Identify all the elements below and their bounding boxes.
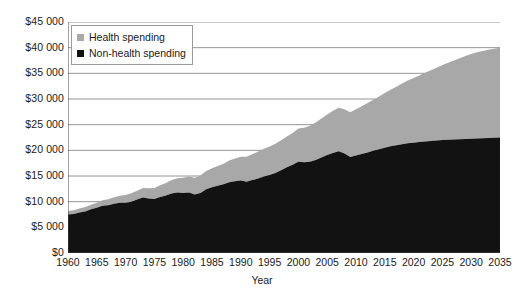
x-axis-tick-label: 2025 — [431, 256, 454, 268]
y-axis-tick-label: $30 000 — [2, 92, 64, 104]
y-axis-tick-labels: $0$5 000$10 000$15 000$20 000$25 000$30 … — [0, 0, 64, 300]
legend-swatch-health-icon — [77, 34, 84, 41]
chart-legend: Health spending Non-health spending — [71, 25, 193, 65]
y-axis-tick-label: $25 000 — [2, 118, 64, 130]
y-axis-tick-label: $10 000 — [2, 195, 64, 207]
x-axis-tick-label: 2005 — [316, 256, 339, 268]
x-axis-tick-label: 2000 — [287, 256, 310, 268]
x-axis-tick-label: 1965 — [85, 256, 108, 268]
y-axis-tick-label: $15 000 — [2, 169, 64, 181]
x-axis-tick-label: 1985 — [200, 256, 223, 268]
x-axis-tick-label: 1980 — [172, 256, 195, 268]
y-axis-tick-label: $45 000 — [2, 15, 64, 27]
y-axis-tick-label: $20 000 — [2, 143, 64, 155]
y-axis-tick-label: $35 000 — [2, 66, 64, 78]
x-axis-tick-label: 2035 — [488, 256, 511, 268]
y-axis-tick-label: $5 000 — [2, 220, 64, 232]
x-axis-tick-label: 1970 — [114, 256, 137, 268]
legend-item-health: Health spending — [77, 29, 186, 45]
x-axis-tick-labels: 1960196519701975198019851990199520002005… — [0, 256, 524, 272]
stacked-area-chart: $0$5 000$10 000$15 000$20 000$25 000$30 … — [0, 0, 524, 300]
x-axis-tick-label: 2015 — [373, 256, 396, 268]
x-axis-tick-label: 1960 — [56, 256, 79, 268]
x-axis-tick-label: 1975 — [143, 256, 166, 268]
x-axis-tick-label: 2020 — [402, 256, 425, 268]
legend-label-non-health: Non-health spending — [89, 47, 186, 59]
legend-item-non-health: Non-health spending — [77, 45, 186, 61]
x-axis-tick-label: 1990 — [229, 256, 252, 268]
legend-swatch-non-health-icon — [77, 50, 84, 57]
x-axis-tick-label: 2030 — [460, 256, 483, 268]
x-axis-tick-label: 1995 — [258, 256, 281, 268]
legend-label-health: Health spending — [89, 31, 165, 43]
x-axis-tick-label: 2010 — [344, 256, 367, 268]
y-axis-tick-label: $40 000 — [2, 41, 64, 53]
x-axis-title: Year — [0, 274, 524, 286]
